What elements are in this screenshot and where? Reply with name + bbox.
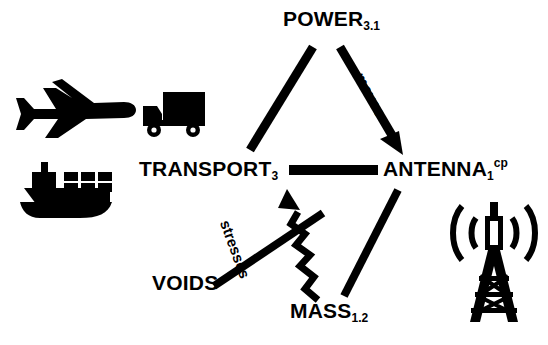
container-ship-icon <box>14 156 118 222</box>
node-label-antenna-subscript: 1 <box>487 169 494 183</box>
edge-mass-antenna <box>344 190 398 296</box>
node-label-power-text: POWER <box>283 7 363 30</box>
broadcast-tower-icon <box>446 196 542 328</box>
node-label-mass-subscript: 1.2 <box>351 311 368 325</box>
arrowhead-mass-transport <box>278 189 300 210</box>
edge-power-transport <box>250 47 313 150</box>
node-label-transport-text: TRANSPORT <box>139 157 271 180</box>
node-label-mass: MASS1.2 <box>290 300 368 321</box>
node-label-voids-text: VOIDS <box>152 271 218 294</box>
concept-diagram: POWER3.1 TRANSPORT3 ANTENNA1cp MASS1.2 V… <box>0 0 548 345</box>
node-label-power-subscript: 3.1 <box>363 19 380 33</box>
arrowhead-power-antenna <box>380 131 403 155</box>
node-label-mass-text: MASS <box>290 299 351 322</box>
airplane-icon <box>12 76 140 142</box>
delivery-truck-icon <box>141 86 207 138</box>
node-label-antenna: ANTENNA1cp <box>383 158 508 179</box>
node-label-transport-subscript: 3 <box>271 169 278 183</box>
node-label-voids: VOIDS <box>152 272 218 293</box>
node-label-antenna-text: ANTENNA <box>383 157 487 180</box>
node-label-power: POWER3.1 <box>283 8 380 29</box>
node-label-transport: TRANSPORT3 <box>139 158 278 179</box>
node-label-antenna-superscript: cp <box>494 156 508 170</box>
